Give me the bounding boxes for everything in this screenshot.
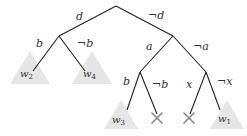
edge-label-not-x: ¬x bbox=[217, 75, 233, 88]
edge-label-b: b bbox=[36, 37, 43, 50]
edge-label-not-d: ¬d bbox=[148, 9, 164, 22]
edge-label-not-b-lower: ¬b bbox=[152, 78, 168, 91]
edge-not-a-x bbox=[190, 72, 206, 114]
cross-icon-left bbox=[152, 113, 162, 123]
edge-label-x: x bbox=[186, 78, 193, 91]
decision-tree-diagram: d ¬d b ¬b a ¬a b ¬b x ¬x w2 w4 w3 w1 bbox=[0, 0, 247, 136]
edge-label-not-b: ¬b bbox=[77, 37, 93, 50]
edge-label-not-a: ¬a bbox=[193, 40, 209, 53]
edge-root-d bbox=[59, 6, 116, 36]
edge-label-d: d bbox=[76, 10, 83, 23]
cross-icon-right bbox=[184, 113, 194, 123]
edge-root-not-d bbox=[116, 6, 173, 36]
edge-label-a: a bbox=[146, 40, 153, 53]
edge-label-b-lower: b bbox=[123, 75, 130, 88]
edge-not-d-a bbox=[140, 36, 173, 72]
